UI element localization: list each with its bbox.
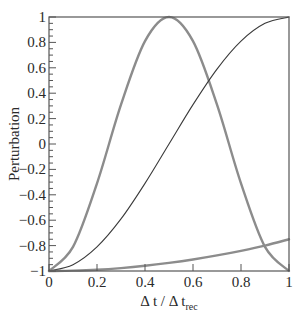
y-axis-tick-labels: −1−0.8−0.6−0.4−0.200.20.40.60.81 (19, 9, 47, 279)
x-axis-label: Δ t / Δ trec (140, 293, 198, 312)
y-axis-ticks (49, 17, 56, 271)
y-axis-label: Perturbation (6, 106, 22, 181)
x-tick-label: 1 (285, 274, 293, 290)
x-tick-label: 0 (45, 274, 53, 290)
x-tick-label: 0.8 (232, 274, 251, 290)
x-axis-label-main: Δ t / Δ t (140, 293, 186, 309)
data-curves (49, 17, 289, 271)
x-tick-label: 0.6 (184, 274, 203, 290)
y-tick-label: −0.6 (19, 212, 47, 228)
series-line-2 (49, 17, 289, 271)
y-tick-label: 1 (39, 9, 47, 25)
y-tick-label: −0.2 (19, 161, 46, 177)
x-tick-label: 0.2 (88, 274, 107, 290)
perturbation-chart: −1−0.8−0.6−0.4−0.200.20.40.60.81 00.20.4… (0, 0, 299, 317)
x-tick-label: 0.4 (136, 274, 155, 290)
series-line-3 (49, 239, 289, 271)
y-tick-label: −0.4 (19, 187, 47, 203)
x-axis-tick-labels: 00.20.40.60.81 (45, 274, 293, 290)
y-tick-label: 0.2 (27, 111, 46, 127)
y-tick-label: 0.4 (27, 85, 46, 101)
x-axis-label-subscript: rec (185, 301, 198, 312)
y-tick-label: −0.8 (19, 238, 46, 254)
y-tick-label: 0 (39, 136, 47, 152)
y-tick-label: 0.8 (27, 34, 46, 50)
y-tick-label: −1 (30, 263, 46, 279)
y-tick-label: 0.6 (27, 60, 46, 76)
